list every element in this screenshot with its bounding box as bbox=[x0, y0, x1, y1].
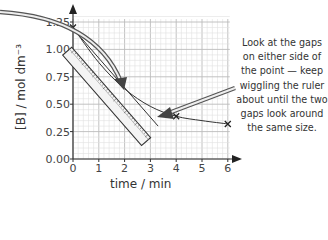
svg-text:4: 4 bbox=[173, 162, 180, 175]
svg-text:0.75: 0.75 bbox=[46, 71, 71, 84]
svg-text:0: 0 bbox=[70, 162, 77, 175]
note-line: the same size. bbox=[236, 121, 328, 135]
svg-text:0.00: 0.00 bbox=[46, 153, 71, 166]
note-line: about until the two bbox=[236, 93, 328, 107]
svg-text:6: 6 bbox=[224, 162, 231, 175]
x-axis-label: time / min bbox=[110, 177, 171, 191]
annotation-note: Look at the gaps on either side of the p… bbox=[236, 36, 328, 135]
note-line: wiggling the ruler bbox=[236, 79, 328, 93]
svg-text:1: 1 bbox=[95, 162, 102, 175]
note-line: gaps look around bbox=[236, 107, 328, 121]
svg-text:0.25: 0.25 bbox=[46, 126, 71, 139]
note-line: Look at the gaps bbox=[236, 36, 328, 50]
ruler bbox=[63, 47, 151, 145]
note-line: on either side of bbox=[236, 50, 328, 64]
svg-text:5: 5 bbox=[199, 162, 206, 175]
svg-text:2: 2 bbox=[121, 162, 128, 175]
y-axis-label: [B] / mol dm⁻³ bbox=[14, 42, 28, 132]
arrow-head-icon bbox=[157, 107, 174, 119]
svg-text:0.50: 0.50 bbox=[46, 98, 71, 111]
svg-text:3: 3 bbox=[147, 162, 154, 175]
note-line: the point — keep bbox=[236, 64, 328, 78]
